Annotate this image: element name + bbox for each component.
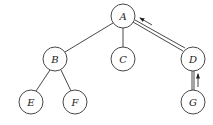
edge-a-b [65, 23, 113, 52]
node-a: A [111, 4, 135, 28]
svg-text:F: F [71, 97, 80, 108]
node-d: D [181, 47, 205, 71]
svg-text:C: C [119, 54, 127, 65]
svg-text:G: G [189, 97, 197, 108]
node-b: B [43, 47, 67, 71]
svg-text:D: D [188, 54, 197, 65]
edge-b-e [36, 70, 50, 91]
node-c: C [111, 47, 135, 71]
edge-b-f [61, 70, 71, 91]
svg-text:E: E [26, 97, 35, 108]
svg-text:B: B [50, 54, 58, 65]
edge-a-d-second [135, 20, 185, 48]
node-g: G [181, 90, 205, 114]
node-e: E [19, 90, 43, 114]
svg-text:A: A [118, 11, 126, 22]
edge-a-d [133, 22, 183, 51]
node-f: F [63, 90, 87, 114]
tree-diagram: A B C D E F G [0, 0, 213, 125]
